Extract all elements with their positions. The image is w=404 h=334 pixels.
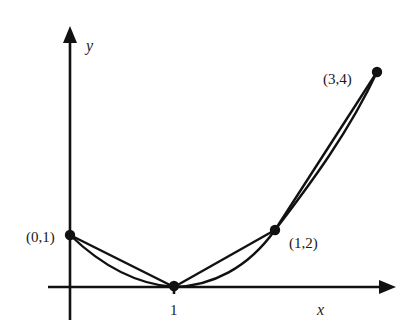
parabola-chord-diagram: (0,1) (1,2) (3,4) 1 x y [0,0,404,334]
chords [70,72,377,287]
point-dot-2 [270,225,280,235]
x-axis-label: x [316,301,324,318]
y-axis-label: y [84,37,94,55]
chord-1 [70,235,174,287]
point-dot-1 [169,281,179,291]
y-axis-arrow-icon [63,26,77,43]
curve [70,72,377,287]
point-dot-0 [65,230,75,240]
point-label-0: (0,1) [26,229,55,246]
point-label-2: (1,2) [289,235,318,252]
chord-3 [275,72,377,230]
point-dot-3 [372,67,382,77]
labels: (0,1) (1,2) (3,4) 1 x y [26,37,352,318]
x-axis-arrow-icon [379,280,396,294]
chord-2 [174,230,275,287]
point-label-3: (3,4) [323,71,352,88]
x-tick-label: 1 [170,302,178,318]
